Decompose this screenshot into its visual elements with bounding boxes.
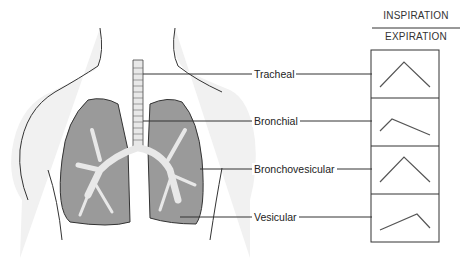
tracheal-label: Tracheal	[252, 68, 296, 80]
bronchovesicular-label: Bronchovesicular	[252, 163, 337, 175]
inspiration-label: INSPIRATION	[370, 10, 462, 21]
tracheal-pattern-icon	[380, 62, 430, 87]
expiration-label: EXPIRATION	[370, 31, 462, 42]
bronchial-label: Bronchial	[252, 115, 300, 127]
pattern-boxes	[371, 50, 439, 242]
vesicular-label: Vesicular	[252, 211, 299, 223]
bronchovesicular-pattern-icon	[380, 157, 430, 182]
vesicular-pattern-icon	[380, 214, 430, 230]
bronchial-pattern-icon	[380, 119, 430, 135]
lungs-illustration	[60, 60, 203, 225]
